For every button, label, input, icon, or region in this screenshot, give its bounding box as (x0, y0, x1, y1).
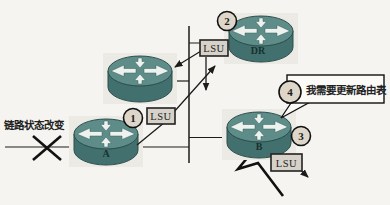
step-circle-4: 4 (279, 81, 301, 103)
step-circle-2: 2 (218, 12, 237, 31)
step-2-number: 2 (224, 15, 230, 27)
router-b-label: B (256, 141, 263, 152)
lsu-packet-2-label: LSU (150, 111, 171, 122)
router-a-label: A (102, 148, 110, 159)
lsu-packet-1: LSU (200, 40, 228, 56)
lsu-arrow-dr-to-top-router (175, 51, 201, 67)
lsu-packet-2: LSU (147, 108, 175, 124)
step-1-number: 1 (130, 112, 136, 124)
lsu-packet-3-label: LSU (276, 158, 297, 169)
lsu-packet-3: LSU (271, 154, 302, 171)
step-4-number: 4 (287, 86, 293, 98)
callout-text: 我需要更新路由表 (306, 84, 387, 96)
step-circle-1: 1 (124, 109, 143, 128)
link-change-caption: 链路状态改变 (3, 119, 65, 131)
ospf-lsu-flooding-diagram: DR A B LSU LSU LSU 我需要更新路由表 1 2 (0, 0, 390, 205)
broken-link-x-icon (33, 136, 61, 160)
router-dr-label: DR (251, 45, 266, 56)
router-b: B (222, 109, 296, 160)
step-3-number: 3 (298, 130, 304, 142)
diagram-canvas: DR A B LSU LSU LSU 我需要更新路由表 1 2 (0, 0, 390, 205)
lsu-packet-1-label: LSU (203, 43, 224, 54)
step-circle-3: 3 (292, 127, 311, 146)
router-top (103, 53, 177, 104)
